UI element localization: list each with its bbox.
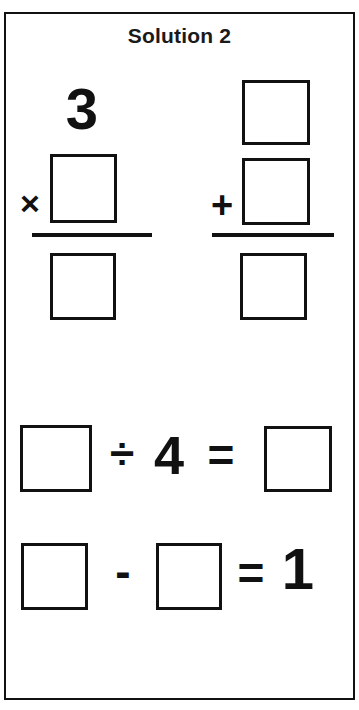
division-operand-right: 4 <box>146 428 192 482</box>
multiplication-operand-bottom-box[interactable] <box>50 154 117 223</box>
division-operator: ÷ <box>104 432 140 476</box>
subtraction-operand-right-box[interactable] <box>156 543 222 610</box>
subtraction-operator: - <box>104 548 142 594</box>
addition-rule <box>212 233 334 237</box>
addition-result-box[interactable] <box>240 253 307 320</box>
addition-operand-top-box[interactable] <box>242 80 310 145</box>
subtraction-equals-sign: = <box>230 550 272 596</box>
subtraction-result: 1 <box>280 540 316 598</box>
worksheet-page: Solution 2 3 × + ÷ 4 = - = 1 <box>0 0 359 710</box>
page-title: Solution 2 <box>0 24 359 48</box>
division-equals-sign: = <box>200 432 242 478</box>
addition-operand-bottom-box[interactable] <box>242 158 310 225</box>
subtraction-operand-left-box[interactable] <box>21 543 88 610</box>
multiplication-operator: × <box>12 186 48 220</box>
multiplication-result-box[interactable] <box>50 253 116 320</box>
multiplication-operand-top: 3 <box>56 80 108 138</box>
division-result-box[interactable] <box>264 426 332 492</box>
division-operand-left-box[interactable] <box>20 425 92 492</box>
addition-operator: + <box>204 186 240 224</box>
multiplication-rule <box>32 233 152 237</box>
